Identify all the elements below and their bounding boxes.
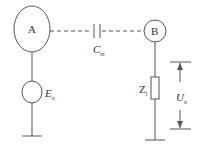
impedance-box <box>151 77 159 99</box>
source-circle <box>22 81 42 103</box>
voltage-label: Un <box>176 92 187 105</box>
arrow-up-head-icon <box>177 63 183 70</box>
arrow-down-head-icon <box>177 121 183 128</box>
source-label: En <box>45 88 55 101</box>
node-a-label: A <box>28 24 36 35</box>
capacitor-label: Cm <box>93 44 105 57</box>
impedance-label: Zl <box>139 84 147 97</box>
node-b-label: B <box>151 26 158 37</box>
